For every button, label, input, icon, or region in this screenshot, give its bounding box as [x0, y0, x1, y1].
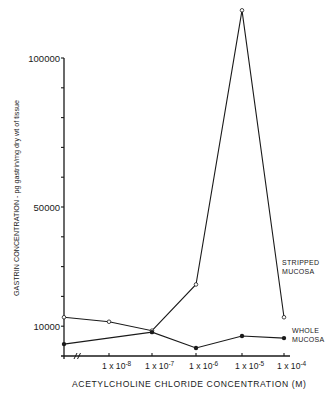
filled-circle-marker: [282, 336, 286, 340]
x-tick-exponent: -7: [168, 360, 174, 367]
open-circle-marker: [107, 320, 111, 324]
x-tick-label: 1 x 10-5: [235, 360, 265, 371]
whole-mucosa-label: WHOLE: [292, 327, 319, 334]
filled-circle-marker: [240, 334, 244, 338]
filled-circle-marker: [150, 330, 154, 334]
y-tick-label: 100000: [28, 53, 60, 64]
x-tick-exponent: -4: [300, 360, 306, 367]
stripped-mucosa-label: MUCOSA: [282, 268, 315, 275]
x-axis-title: ACETYLCHOLINE CHLORIDE CONCENTRATION (M): [72, 379, 306, 389]
x-tick-label: 1 x 10-7: [145, 360, 175, 371]
open-circle-marker: [194, 283, 198, 287]
x-tick-exponent: -5: [258, 360, 264, 367]
x-tick-label: 1 x 10-4: [277, 360, 307, 371]
axes: [61, 58, 290, 359]
x-tick-exponent: -8: [125, 360, 131, 367]
stripped-mucosa-line: [64, 10, 284, 330]
y-tick-label: 10000: [34, 321, 60, 332]
x-tick-exponent: -6: [212, 360, 218, 367]
y-axis-title: GASTRIN CONCENTRATION - pg gastrin/mg dr…: [12, 100, 21, 296]
whole-mucosa-label: MUCOSA: [292, 336, 325, 343]
filled-circle-marker: [194, 346, 198, 350]
filled-circle-marker: [62, 342, 66, 346]
stripped-mucosa-label: STRIPPED: [282, 259, 319, 266]
open-circle-marker: [282, 315, 286, 319]
y-tick-label: 50000: [34, 202, 60, 213]
series-labels: STRIPPEDMUCOSAWHOLEMUCOSA: [282, 259, 325, 343]
open-circle-marker: [240, 9, 244, 13]
whole-mucosa-line: [64, 332, 284, 348]
data-series: [62, 9, 286, 351]
x-tick-label: 1 x 10-8: [102, 360, 132, 371]
open-circle-marker: [62, 315, 66, 319]
y-axis-label: GASTRIN CONCENTRATION - pg gastrin/mg dr…: [12, 100, 21, 296]
gastrin-line-chart: GASTRIN CONCENTRATION - pg gastrin/mg dr…: [0, 0, 336, 400]
x-tick-label: 1 x 10-6: [189, 360, 219, 371]
y-axis-ticks: 1000050000100000: [28, 53, 64, 332]
